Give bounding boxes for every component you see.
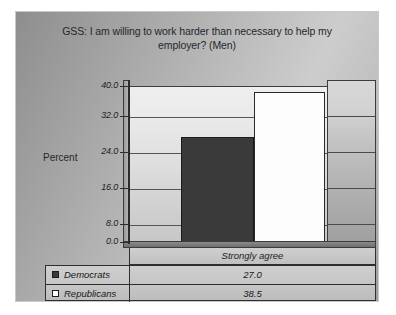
legend-swatch-republicans-icon xyxy=(52,290,59,297)
y-axis-title: Percent xyxy=(43,152,77,163)
y-tick-label-24: 24.0 xyxy=(72,146,118,156)
y-tick-label-16: 16.0 xyxy=(72,182,118,192)
y-axis-line xyxy=(128,80,130,244)
y-tick-0 xyxy=(120,242,128,243)
legend-table: Democrats 27.0 Republicans 38.5 xyxy=(45,265,376,301)
legend-label-republicans: Republicans xyxy=(64,288,116,299)
figure-page: GSS: I am willing to work harder than ne… xyxy=(0,0,396,315)
bar-democrats[interactable] xyxy=(181,137,254,242)
legend-swatch-democrats-icon xyxy=(52,271,59,278)
legend-name-cell: Republicans xyxy=(46,285,130,302)
side-wall-gridline xyxy=(328,224,375,225)
legend-row-democrats[interactable]: Democrats 27.0 xyxy=(46,266,375,284)
y-tick-label-32: 32.0 xyxy=(72,110,118,120)
chart-panel: GSS: I am willing to work harder than ne… xyxy=(16,12,378,301)
legend-label-democrats: Democrats xyxy=(64,269,110,280)
side-wall-gridline xyxy=(328,116,375,117)
legend-value-republicans: 38.5 xyxy=(130,288,375,299)
y-tick-32 xyxy=(120,116,128,117)
chart-floor xyxy=(123,241,376,248)
side-wall-gridline xyxy=(328,188,375,189)
chart-side-wall xyxy=(327,80,376,243)
y-tick-label-0: 0.0 xyxy=(72,236,118,246)
category-label: Strongly agree xyxy=(130,250,375,261)
y-tick-label-8: 8.0 xyxy=(72,218,118,228)
legend-row-republicans[interactable]: Republicans 38.5 xyxy=(46,284,375,302)
plot-area xyxy=(129,86,328,243)
legend-name-cell: Democrats xyxy=(46,266,130,284)
y-tick-8 xyxy=(120,224,128,225)
y-tick-40 xyxy=(120,86,128,87)
category-row: Strongly agree xyxy=(129,248,376,265)
y-tick-16 xyxy=(120,188,128,189)
legend-value-democrats: 27.0 xyxy=(130,269,375,280)
y-tick-label-40: 40.0 xyxy=(72,80,118,90)
bar-republicans[interactable] xyxy=(254,92,325,242)
side-wall-gridline xyxy=(328,152,375,153)
y-tick-24 xyxy=(120,152,128,153)
